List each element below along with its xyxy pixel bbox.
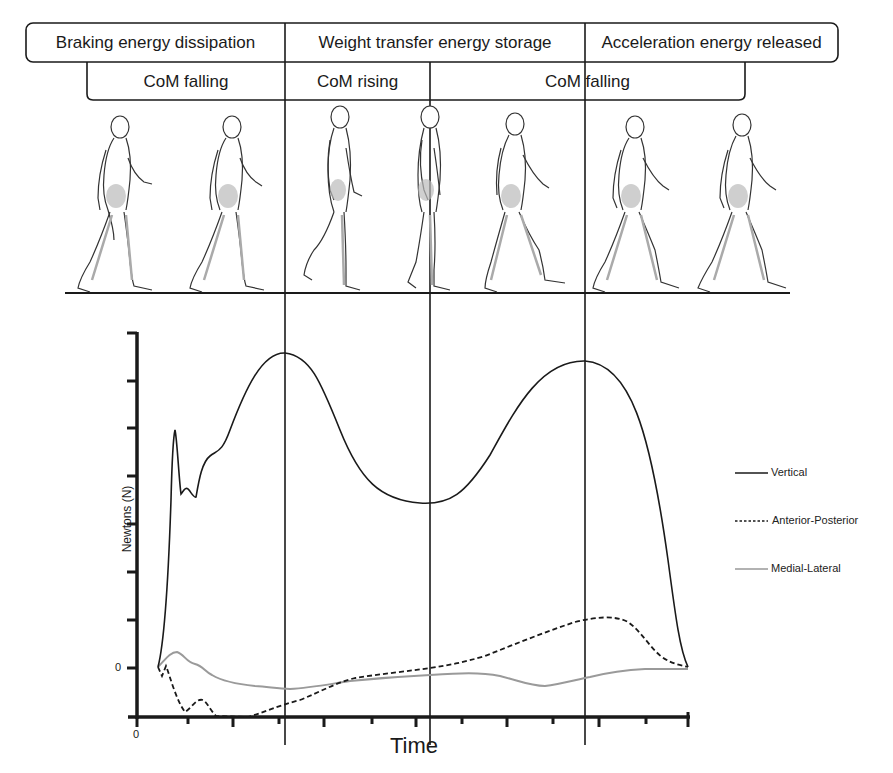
- walking-figure-6: [593, 116, 679, 292]
- legend-label-anterior-posterior: Anterior-Posterior: [772, 514, 858, 526]
- x-axis-label: Time: [390, 733, 438, 759]
- walking-figure-2: [190, 116, 264, 292]
- y-zero-label: 0: [115, 661, 121, 673]
- series-medial-lateral: [158, 652, 688, 689]
- walking-figures: [78, 106, 786, 292]
- legend-label-vertical: Vertical: [771, 466, 807, 478]
- x-ticks: [137, 712, 688, 727]
- phase-label-acceleration: Acceleration energy released: [585, 33, 838, 53]
- series-vertical: [158, 353, 688, 667]
- walking-figure-1: [78, 116, 152, 292]
- chart-axes: [127, 332, 690, 727]
- walking-figure-3: [304, 106, 362, 290]
- com-label-rising: CoM rising: [285, 72, 430, 92]
- walking-figure-7: [698, 114, 786, 292]
- x-zero-label: 0: [133, 728, 139, 740]
- y-axis-label: Newtons (N): [120, 464, 134, 574]
- diagram-canvas: [0, 0, 893, 773]
- walking-figure-5: [485, 113, 565, 292]
- com-label-falling-1: CoM falling: [87, 72, 285, 92]
- phase-label-weight-transfer: Weight transfer energy storage: [285, 33, 585, 53]
- series-anterior-posterior: [158, 617, 688, 717]
- walking-figure-4: [408, 106, 450, 290]
- legend-label-medial-lateral: Medial-Lateral: [771, 562, 841, 574]
- com-label-falling-2: CoM falling: [430, 72, 745, 92]
- phase-label-braking: Braking energy dissipation: [26, 33, 285, 53]
